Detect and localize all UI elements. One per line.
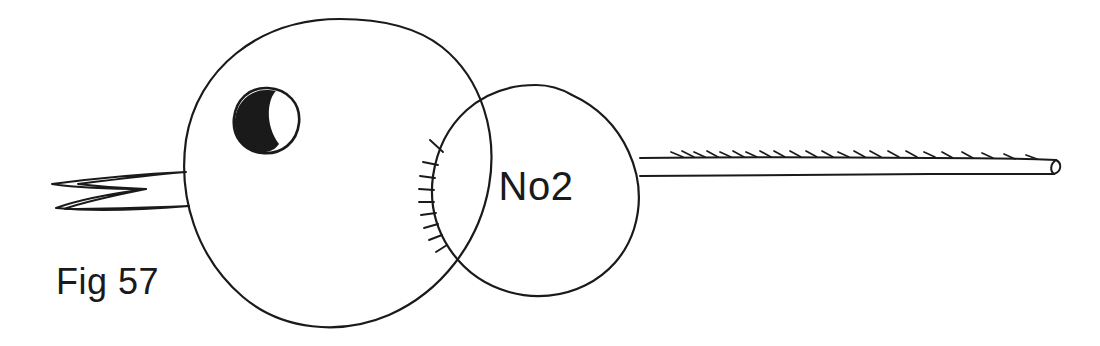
eye [234,88,299,153]
hand-drawn-figure: No2 Fig 57 [0,0,1100,346]
tail [640,151,1060,176]
figure-canvas: No2 Fig 57 [0,0,1100,346]
figure-caption: Fig 57 [56,261,159,302]
head-circle [184,19,491,327]
open-beak [52,172,189,210]
segment-label: No2 [499,164,574,208]
